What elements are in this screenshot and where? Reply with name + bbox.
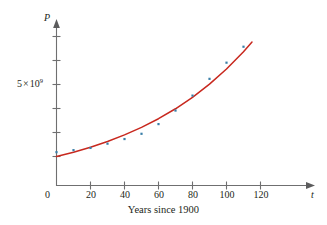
x-tick-label-40: 40 <box>114 190 136 200</box>
data-point <box>225 62 227 64</box>
x-tick-label-60: 60 <box>148 190 170 200</box>
multiplication-sign-icon: × <box>22 78 30 89</box>
data-point <box>174 109 176 111</box>
x-axis-arrow-icon <box>306 182 315 189</box>
data-point <box>140 133 142 135</box>
data-point <box>55 151 57 153</box>
y-tick-label-5e9: 5×109 <box>17 79 43 89</box>
x-tick-label-80: 80 <box>182 190 204 200</box>
y-tick-exponent: 9 <box>40 77 43 84</box>
data-point <box>191 95 193 97</box>
y-axis-label: P <box>44 13 50 23</box>
exponential-fit-curve <box>57 42 253 156</box>
data-points-group <box>55 46 244 154</box>
x-axis-label: t <box>311 190 314 200</box>
data-point <box>72 149 74 151</box>
y-axis-arrow-icon <box>53 19 60 28</box>
data-point <box>208 78 210 80</box>
figure-container: P t 0 5×109 20 40 60 80 100 120 Years si… <box>0 0 327 225</box>
x-tick-label-120: 120 <box>248 190 274 200</box>
figure-caption: Years since 1900 <box>0 205 327 216</box>
y-tick-base: 10 <box>30 78 40 89</box>
data-point <box>123 138 125 140</box>
x-tick-label-20: 20 <box>80 190 102 200</box>
data-point <box>89 147 91 149</box>
data-point <box>157 123 159 125</box>
x-tick-label-100: 100 <box>214 190 240 200</box>
data-point <box>242 46 244 48</box>
origin-label: 0 <box>45 190 50 200</box>
data-point <box>106 143 108 145</box>
